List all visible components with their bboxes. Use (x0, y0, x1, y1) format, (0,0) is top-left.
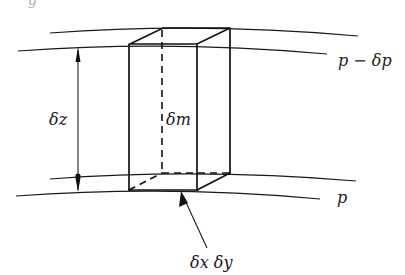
area-label: δx δy (190, 253, 233, 272)
lower-surface-label: p (337, 188, 347, 207)
height-label: δz (49, 110, 68, 129)
arrow-down-icon (76, 178, 81, 192)
upper-surface-back-curve (50, 28, 358, 36)
lower-surface-front-curve (16, 191, 320, 199)
lower-surface-back-curve (50, 174, 356, 181)
air-column-box (129, 28, 230, 190)
box-bottom-right-diagonal (197, 173, 230, 190)
dimension-dot (75, 173, 80, 178)
area-leader-arrow (179, 191, 207, 248)
box-top-face (130, 28, 230, 44)
pressure-layer-column-diagram: δz δm p − δp p δx δy (0, 0, 405, 275)
upper-surface-label: p − δp (338, 51, 392, 70)
arrow-up-icon (76, 47, 81, 62)
height-dimension-arrow (75, 47, 80, 192)
upper-surface-front-curve (18, 46, 327, 54)
box-hidden-bottom-left-diagonal (129, 173, 162, 190)
area-leader-line (184, 198, 207, 248)
mass-label: δm (166, 110, 191, 129)
lower-pressure-surface (16, 174, 356, 199)
upper-pressure-surface (18, 28, 358, 54)
